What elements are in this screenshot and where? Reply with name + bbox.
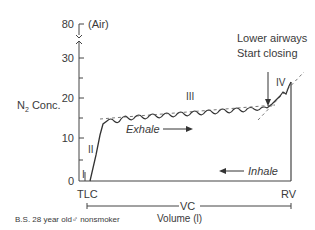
y-tick-80: 80 bbox=[62, 18, 74, 30]
y-axis bbox=[76, 24, 84, 181]
inhale-arrow-icon bbox=[219, 168, 244, 174]
y-axis-label: N2 Conc. bbox=[17, 99, 61, 113]
phase-4-label: IV bbox=[276, 77, 286, 88]
inhale-label: Inhale bbox=[248, 165, 278, 177]
footnote: B.S. 28 year old♂ nonsmoker bbox=[15, 215, 120, 224]
y-tick-0: 0 bbox=[68, 175, 74, 187]
x-axis-label: Volume (l) bbox=[157, 213, 202, 224]
phase-2-label: II bbox=[88, 144, 94, 155]
phase-3-trend-dashed bbox=[100, 105, 275, 119]
exhale-arrow-icon bbox=[163, 126, 193, 132]
rv-label: RV bbox=[281, 188, 297, 200]
phase-1-label: I bbox=[82, 169, 85, 180]
closing-arrow-icon bbox=[265, 72, 271, 106]
closing-label-line1: Lower airways bbox=[237, 32, 308, 44]
closing-label-line2: Start closing bbox=[237, 47, 298, 59]
y-air-label: (Air) bbox=[88, 18, 109, 30]
y-tick-10: 10 bbox=[62, 132, 74, 144]
tlc-label: TLC bbox=[77, 188, 98, 200]
nitrogen-washout-chart: 80 (Air) 30 20 10 0 N2 Conc. I II III IV… bbox=[0, 0, 315, 230]
y-tick-20: 20 bbox=[62, 92, 74, 104]
vc-label: VC bbox=[180, 200, 195, 212]
exhale-label: Exhale bbox=[126, 123, 160, 135]
y-tick-30: 30 bbox=[62, 52, 74, 64]
phase-3-label: III bbox=[186, 91, 194, 102]
phase-3-curve bbox=[107, 107, 267, 123]
